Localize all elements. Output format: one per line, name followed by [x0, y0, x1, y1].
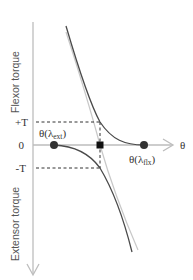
- theta-axis-label: θ: [180, 139, 185, 151]
- extensor-curve: [54, 145, 132, 252]
- extensor-torque-label: Extensor torque: [9, 187, 21, 261]
- flexor-torque-label: Flexor torque: [9, 51, 21, 113]
- y-axis: [27, 22, 39, 275]
- reference-curve: [66, 32, 138, 250]
- flexor-curve: [66, 26, 144, 145]
- flx-equilibrium-dot: [140, 141, 148, 149]
- operating-point-square: [97, 142, 104, 149]
- zero-label: 0: [19, 139, 25, 151]
- theta-lambda-ext-label: θ(λext): [39, 127, 66, 141]
- ext-equilibrium-dot: [50, 141, 58, 149]
- plus-t-label: +T: [15, 116, 28, 128]
- torque-angle-diagram: Flexor torque Extensor torque +T 0 -T θ …: [0, 0, 193, 280]
- theta-lambda-flx-label: θ(λflx): [129, 153, 156, 167]
- minus-t-label: -T: [16, 162, 27, 174]
